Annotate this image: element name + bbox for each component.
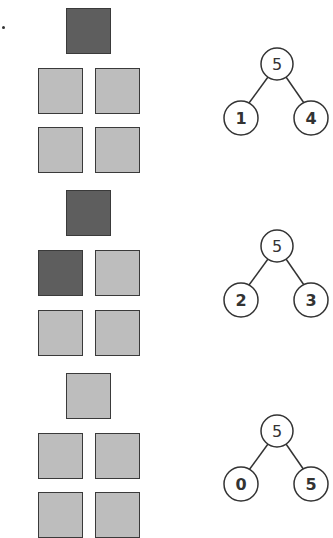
square-row1-left xyxy=(38,250,83,296)
part-left-value: 2 xyxy=(235,291,246,310)
square-top xyxy=(66,373,111,419)
square-row2-right xyxy=(95,492,140,538)
square-row1-right xyxy=(95,250,140,296)
square-row1-right xyxy=(95,433,140,479)
square-row1-left xyxy=(38,433,83,479)
part-right-value: 5 xyxy=(305,475,316,494)
square-row1-left xyxy=(38,68,83,114)
number-bond-2: 5 2 3 xyxy=(210,228,333,322)
square-row1-right xyxy=(95,68,140,114)
number-bond-1: 5 1 4 xyxy=(210,46,333,140)
square-row2-left xyxy=(38,310,83,356)
whole-value: 5 xyxy=(272,55,282,74)
square-row2-right xyxy=(95,310,140,356)
number-bond-3: 5 0 5 xyxy=(210,413,333,507)
part-right-value: 4 xyxy=(305,109,316,128)
whole-value: 5 xyxy=(272,422,282,441)
bullet-dot xyxy=(2,26,5,29)
square-top xyxy=(66,8,111,54)
square-row2-right xyxy=(95,127,140,173)
square-row2-left xyxy=(38,127,83,173)
whole-value: 5 xyxy=(272,237,282,256)
square-row2-left xyxy=(38,492,83,538)
part-left-value: 0 xyxy=(235,475,246,494)
part-left-value: 1 xyxy=(235,109,246,128)
square-top xyxy=(66,190,111,236)
part-right-value: 3 xyxy=(305,291,316,310)
